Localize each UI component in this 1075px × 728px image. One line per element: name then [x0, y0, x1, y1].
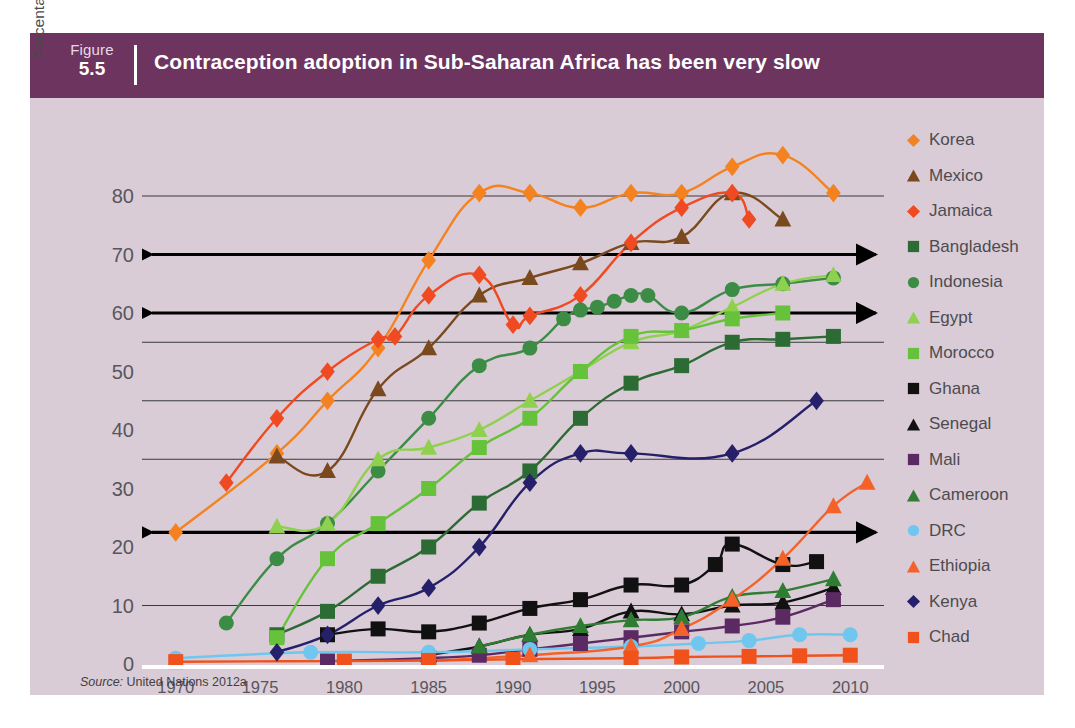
- marker-bangladesh-6: [573, 411, 588, 426]
- legend-label: Korea: [929, 130, 974, 150]
- marker-bangladesh-8: [674, 358, 689, 373]
- legend-item-drc[interactable]: DRC: [906, 522, 966, 540]
- marker-morocco-1: [320, 551, 335, 566]
- legend-item-ghana[interactable]: Ghana: [906, 380, 980, 398]
- marker-ghana-5: [573, 592, 588, 607]
- marker-ethiopia-7: [859, 474, 876, 490]
- legend-item-cameroon[interactable]: Cameroon: [906, 486, 1008, 504]
- marker-chad-6: [742, 649, 757, 664]
- legend-label: Mali: [929, 450, 960, 470]
- legend-marker-triangle-icon: [906, 310, 921, 325]
- legend-marker-triangle-icon: [906, 559, 921, 574]
- y-tick-10: 10: [112, 594, 134, 617]
- series-line-mexico: [277, 193, 783, 476]
- legend-label: Cameroon: [929, 485, 1008, 505]
- legend-marker-square-icon: [906, 630, 921, 645]
- legend-marker-circle-icon: [906, 523, 921, 538]
- marker-korea-7: [573, 198, 588, 217]
- legend-item-korea[interactable]: Korea: [906, 131, 974, 149]
- source-text: United Nations 2012a: [127, 675, 247, 689]
- figure-panel: Figure 5.5 Contraception adoption in Sub…: [30, 33, 1044, 695]
- figure-header: Figure 5.5 Contraception adoption in Sub…: [30, 33, 1044, 98]
- marker-bangladesh-9: [725, 335, 740, 350]
- marker-drc-1: [303, 645, 318, 660]
- marker-korea-6: [523, 184, 538, 203]
- marker-drc-8: [843, 627, 858, 642]
- marker-korea-8: [624, 184, 639, 203]
- chart-legend: KoreaMexicoJamaicaBangladeshIndonesiaEgy…: [892, 98, 1044, 695]
- marker-korea-5: [472, 184, 487, 203]
- legend-item-mali[interactable]: Mali: [906, 451, 960, 469]
- marker-ghana-7: [674, 578, 689, 593]
- y-tick-50: 50: [112, 360, 134, 383]
- marker-kenya-9: [809, 391, 824, 410]
- marker-egypt-4: [471, 421, 488, 437]
- marker-chad-8: [843, 648, 858, 663]
- marker-indonesia-12: [640, 288, 655, 303]
- marker-indonesia-11: [624, 288, 639, 303]
- marker-ghana-11: [809, 554, 824, 569]
- legend-marker-diamond-icon: [906, 594, 921, 609]
- marker-korea-10: [725, 157, 740, 176]
- marker-jamaica-6: [472, 266, 487, 285]
- marker-morocco-10: [775, 306, 790, 321]
- marker-drc-7: [792, 627, 807, 642]
- marker-indonesia-1: [269, 551, 284, 566]
- legend-marker-diamond-icon: [906, 133, 921, 148]
- legend-label: Egypt: [929, 308, 972, 328]
- source-prefix: Source:: [80, 675, 123, 689]
- legend-label: Ethiopia: [929, 556, 990, 576]
- legend-marker-square-icon: [906, 346, 921, 361]
- marker-ghana-9: [725, 537, 740, 552]
- series-line-jamaica: [226, 193, 749, 483]
- legend-marker-square-icon: [906, 239, 921, 254]
- marker-ghana-3: [472, 616, 487, 631]
- y-tick-40: 40: [112, 419, 134, 442]
- legend-item-mexico[interactable]: Mexico: [906, 167, 983, 185]
- y-tick-60: 60: [112, 302, 134, 325]
- legend-item-indonesia[interactable]: Indonesia: [906, 273, 1003, 291]
- y-tick-30: 30: [112, 477, 134, 500]
- marker-chad-5: [674, 649, 689, 664]
- legend-label: DRC: [929, 521, 966, 541]
- marker-bangladesh-10: [775, 332, 790, 347]
- marker-morocco-5: [522, 411, 537, 426]
- marker-bangladesh-2: [371, 569, 386, 584]
- marker-bangladesh-3: [421, 540, 436, 555]
- legend-item-kenya[interactable]: Kenya: [906, 593, 977, 611]
- y-tick-20: 20: [112, 536, 134, 559]
- legend-item-chad[interactable]: Chad: [906, 628, 970, 646]
- marker-indonesia-7: [556, 311, 571, 326]
- marker-morocco-6: [573, 364, 588, 379]
- legend-item-egypt[interactable]: Egypt: [906, 309, 972, 327]
- legend-item-ethiopia[interactable]: Ethiopia: [906, 557, 990, 575]
- marker-chad-4: [624, 651, 639, 666]
- chart-plot-area: [142, 98, 884, 695]
- marker-indonesia-5: [472, 358, 487, 373]
- marker-bangladesh-11: [826, 329, 841, 344]
- marker-jamaica-13: [742, 210, 757, 229]
- marker-egypt-0: [269, 518, 286, 534]
- marker-kenya-2: [371, 596, 386, 615]
- legend-label: Ghana: [929, 379, 980, 399]
- legend-item-morocco[interactable]: Morocco: [906, 344, 994, 362]
- marker-drc-6: [742, 633, 757, 648]
- legend-item-jamaica[interactable]: Jamaica: [906, 202, 992, 220]
- marker-ghana-2: [421, 624, 436, 639]
- marker-jamaica-8: [523, 307, 538, 326]
- series-line-kenya: [277, 401, 817, 653]
- legend-label: Chad: [929, 627, 970, 647]
- legend-item-senegal[interactable]: Senegal: [906, 415, 991, 433]
- marker-mali-9: [826, 592, 841, 607]
- marker-jamaica-9: [573, 286, 588, 305]
- legend-label: Morocco: [929, 343, 994, 363]
- marker-mexico-8: [673, 228, 690, 244]
- figure-number-block: Figure 5.5: [58, 42, 126, 79]
- legend-item-bangladesh[interactable]: Bangladesh: [906, 238, 1019, 256]
- marker-korea-11: [776, 146, 791, 165]
- legend-marker-square-icon: [906, 381, 921, 396]
- marker-ghana-4: [522, 601, 537, 616]
- marker-mexico-0: [269, 447, 286, 463]
- header-divider: [134, 45, 137, 85]
- marker-morocco-3: [421, 481, 436, 496]
